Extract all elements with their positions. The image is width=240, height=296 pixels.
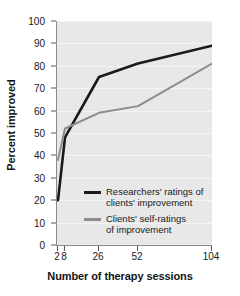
- y-axis-tick-label: 100: [28, 16, 45, 27]
- y-axis-tick-label: 50: [34, 128, 45, 139]
- legend-label-clients-line2: of improvement: [106, 224, 186, 235]
- y-axis-tick-mark: [51, 245, 56, 246]
- x-axis-tick-label: 104: [203, 251, 220, 262]
- y-axis-tick-label: 90: [34, 38, 45, 49]
- series-line-clients: [58, 64, 212, 160]
- x-axis-title: Number of therapy sessions: [0, 270, 240, 282]
- y-axis-tick-label: 20: [34, 195, 45, 206]
- x-axis-tick-label: 26: [92, 251, 103, 262]
- legend-item-researchers: Researchers' ratings of clients' improve…: [84, 186, 214, 208]
- y-axis-tick-mark: [51, 21, 56, 22]
- y-axis-tick-label: 70: [34, 83, 45, 94]
- y-axis-tick-label: 10: [34, 217, 45, 228]
- y-axis-tick-mark: [51, 222, 56, 223]
- y-axis-title: Percent improved: [0, 0, 22, 250]
- x-axis-tick-label: 2: [54, 251, 60, 262]
- y-axis-tick-label: 30: [34, 172, 45, 183]
- y-axis-title-text: Percent improved: [5, 79, 17, 170]
- chart-legend: Researchers' ratings of clients' improve…: [84, 186, 214, 240]
- legend-label-researchers-line2: clients' improvement: [106, 197, 203, 208]
- y-axis-tick-mark: [51, 177, 56, 178]
- y-axis-tick-mark: [51, 65, 56, 66]
- y-axis-tick-mark: [51, 155, 56, 156]
- legend-label-researchers-line1: Researchers' ratings of: [106, 186, 203, 197]
- legend-label-researchers: Researchers' ratings of clients' improve…: [106, 186, 203, 208]
- chart-figure: Percent improved 0102030405060708090100 …: [0, 0, 240, 296]
- legend-label-clients-line1: Clients' self-ratings: [106, 213, 186, 224]
- y-axis-tick-labels: 0102030405060708090100: [20, 0, 48, 296]
- y-axis-tick-label: 40: [34, 150, 45, 161]
- y-axis-tick-mark: [51, 133, 56, 134]
- legend-swatch-researchers: [84, 191, 101, 194]
- legend-label-clients: Clients' self-ratings of improvement: [106, 213, 186, 235]
- y-axis-tick-mark: [51, 110, 56, 111]
- y-axis-tick-mark: [51, 88, 56, 89]
- x-axis-tick-label: 8: [61, 251, 67, 262]
- y-axis-tick-mark: [51, 200, 56, 201]
- legend-swatch-clients: [84, 218, 101, 221]
- y-axis-tick-label: 0: [39, 240, 45, 251]
- legend-item-clients: Clients' self-ratings of improvement: [84, 213, 214, 235]
- y-axis-tick-mark: [51, 43, 56, 44]
- y-axis-tick-label: 80: [34, 60, 45, 71]
- x-axis-tick-label: 52: [131, 251, 142, 262]
- y-axis-tick-label: 60: [34, 105, 45, 116]
- series-line-researchers: [58, 46, 212, 201]
